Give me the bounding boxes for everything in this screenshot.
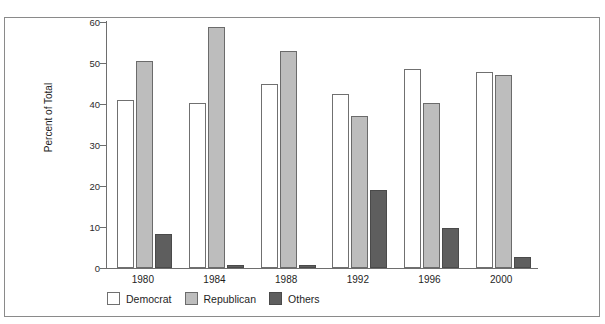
bar-group — [261, 22, 316, 268]
bar-democrat-1980[interactable] — [117, 100, 134, 268]
bar-others-1992[interactable] — [370, 190, 387, 268]
x-tick-label-1992: 1992 — [322, 274, 394, 285]
bar-democrat-2000[interactable] — [476, 72, 493, 268]
bar-republican-1980[interactable] — [136, 61, 153, 268]
chart-figure: 0102030405060 Percent of Total 198019841… — [0, 0, 605, 324]
y-tick-label: 10 — [60, 222, 100, 233]
y-tick-mark — [100, 186, 106, 187]
legend-item-democrat[interactable]: Democrat — [107, 292, 172, 305]
legend-label: Others — [288, 293, 320, 305]
y-tick-label: 20 — [60, 181, 100, 192]
y-tick-mark — [100, 145, 106, 146]
bar-republican-2000[interactable] — [495, 75, 512, 268]
y-tick-mark — [100, 227, 106, 228]
y-tick-mark — [100, 22, 106, 23]
bar-democrat-1988[interactable] — [261, 84, 278, 269]
x-tick-label-1984: 1984 — [179, 274, 251, 285]
bar-group — [189, 22, 244, 268]
bar-group — [117, 22, 172, 268]
y-tick-label: 60 — [60, 17, 100, 28]
bar-republican-1992[interactable] — [351, 116, 368, 268]
y-tick-mark — [100, 63, 106, 64]
y-tick-label: 30 — [60, 140, 100, 151]
bar-group — [404, 22, 459, 268]
bar-democrat-1984[interactable] — [189, 103, 206, 268]
y-tick-mark — [100, 268, 106, 269]
plot-area — [107, 22, 537, 268]
legend-swatch-icon-others — [269, 292, 282, 305]
y-tick-mark — [100, 104, 106, 105]
bar-republican-1988[interactable] — [280, 51, 297, 268]
legend-swatch-icon-republican — [185, 292, 198, 305]
bar-others-2000[interactable] — [514, 257, 531, 268]
y-axis-label: Percent of Total — [43, 48, 54, 188]
y-tick-label: 50 — [60, 58, 100, 69]
x-axis-line — [106, 268, 538, 269]
bar-republican-1996[interactable] — [423, 103, 440, 268]
bar-others-1984[interactable] — [227, 265, 244, 268]
legend-item-republican[interactable]: Republican — [185, 292, 257, 305]
bar-others-1988[interactable] — [299, 265, 316, 268]
x-tick-label-2000: 2000 — [465, 274, 537, 285]
legend-swatch-icon-democrat — [107, 292, 120, 305]
y-tick-label: 0 — [60, 263, 100, 274]
legend-label: Democrat — [126, 293, 172, 305]
x-tick-label-1980: 1980 — [107, 274, 179, 285]
bar-democrat-1996[interactable] — [404, 69, 421, 268]
x-tick-label-1996: 1996 — [394, 274, 466, 285]
legend-item-others[interactable]: Others — [269, 292, 320, 305]
bar-democrat-1992[interactable] — [332, 94, 349, 268]
bar-group — [332, 22, 387, 268]
bar-others-1996[interactable] — [442, 228, 459, 268]
bar-others-1980[interactable] — [155, 234, 172, 268]
y-tick-label: 40 — [60, 99, 100, 110]
bar-group — [476, 22, 531, 268]
chart-legend: DemocratRepublicanOthers — [107, 292, 320, 305]
legend-label: Republican — [204, 293, 257, 305]
bar-republican-1984[interactable] — [208, 27, 225, 268]
x-tick-label-1988: 1988 — [250, 274, 322, 285]
